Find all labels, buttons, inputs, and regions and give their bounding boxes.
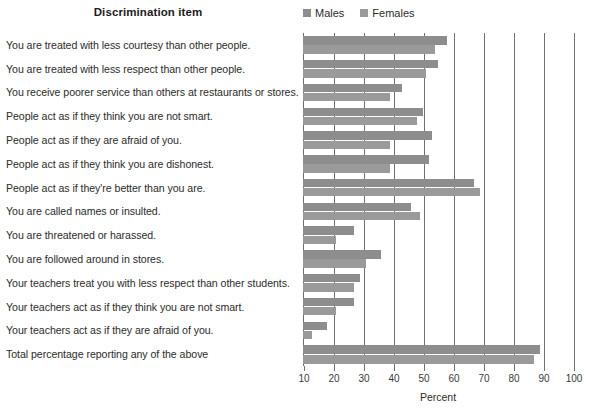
row-bars bbox=[303, 273, 583, 293]
chart-row: People act as if they are afraid of you. bbox=[0, 128, 589, 152]
x-tick-label: 80 bbox=[508, 373, 519, 384]
legend-label: Males bbox=[315, 7, 344, 19]
square-swatch-icon bbox=[303, 9, 311, 17]
chart-legend: MalesFemales bbox=[303, 7, 415, 19]
row-bars bbox=[303, 320, 583, 340]
x-tick-label: 70 bbox=[478, 373, 489, 384]
chart-row: You are threatened or harassed. bbox=[0, 223, 589, 247]
x-tick-label: 20 bbox=[328, 373, 339, 384]
row-label: Your teachers act as if they are afraid … bbox=[6, 324, 214, 336]
bar-females bbox=[303, 93, 390, 101]
chart-row: Total percentage reporting any of the ab… bbox=[0, 342, 589, 366]
row-bars bbox=[303, 344, 583, 364]
row-label: You are followed around in stores. bbox=[6, 253, 164, 265]
tick-mark-50 bbox=[424, 366, 425, 371]
bar-males bbox=[303, 203, 411, 211]
tick-mark-90 bbox=[544, 366, 545, 371]
row-bars bbox=[303, 130, 583, 150]
x-tick-label: 100 bbox=[566, 373, 583, 384]
row-bars bbox=[303, 59, 583, 79]
tick-mark-20 bbox=[334, 366, 335, 371]
tick-mark-100 bbox=[574, 366, 575, 371]
bar-females bbox=[303, 307, 336, 315]
tick-mark-80 bbox=[514, 366, 515, 371]
bar-females bbox=[303, 259, 366, 267]
legend-label: Females bbox=[372, 7, 414, 19]
bar-females bbox=[303, 45, 435, 53]
bar-males bbox=[303, 250, 381, 258]
row-bars bbox=[303, 106, 583, 126]
row-label: People act as if they're better than you… bbox=[6, 182, 205, 194]
row-label: People act as if they are afraid of you. bbox=[6, 134, 182, 146]
chart-row: People act as if they think you are not … bbox=[0, 104, 589, 128]
bar-males bbox=[303, 84, 402, 92]
bar-females bbox=[303, 164, 390, 172]
x-tick-label: 50 bbox=[418, 373, 429, 384]
legend-entry-females: Females bbox=[360, 7, 414, 19]
row-bars bbox=[303, 154, 583, 174]
bar-males bbox=[303, 131, 432, 139]
row-bars bbox=[303, 249, 583, 269]
bar-females bbox=[303, 69, 426, 77]
row-label: Total percentage reporting any of the ab… bbox=[6, 348, 208, 360]
chart-row: You are treated with less respect than o… bbox=[0, 57, 589, 81]
bar-males bbox=[303, 226, 354, 234]
bar-females bbox=[303, 141, 390, 149]
bar-males bbox=[303, 322, 327, 330]
row-label: You are treated with less courtesy than … bbox=[6, 39, 250, 51]
bar-males bbox=[303, 60, 438, 68]
bar-females bbox=[303, 188, 480, 196]
row-bars bbox=[303, 35, 583, 55]
bar-males bbox=[303, 345, 540, 355]
row-label: You are called names or insulted. bbox=[6, 205, 161, 217]
row-bars bbox=[303, 202, 583, 222]
bar-females bbox=[303, 355, 534, 365]
row-label: Your teachers act as if they think you a… bbox=[6, 301, 244, 313]
discrimination-bar-chart: Discrimination item MalesFemales 1020304… bbox=[0, 0, 589, 413]
row-label: Your teachers treat you with less respec… bbox=[6, 277, 290, 289]
x-axis-title: Percent bbox=[303, 391, 573, 403]
bar-females bbox=[303, 212, 420, 220]
bar-males bbox=[303, 274, 360, 282]
bar-females bbox=[303, 117, 417, 125]
legend-entry-males: Males bbox=[303, 7, 344, 19]
chart-row: You are followed around in stores. bbox=[0, 247, 589, 271]
chart-row: You are treated with less courtesy than … bbox=[0, 33, 589, 57]
bar-males bbox=[303, 155, 429, 163]
row-label: You are treated with less respect than o… bbox=[6, 63, 245, 75]
square-swatch-icon bbox=[360, 9, 368, 17]
chart-row: People act as if they think you are dish… bbox=[0, 152, 589, 176]
chart-header: Discrimination item MalesFemales bbox=[0, 6, 589, 28]
bar-males bbox=[303, 298, 354, 306]
row-label: You are threatened or harassed. bbox=[6, 229, 156, 241]
row-label: You receive poorer service than others a… bbox=[6, 86, 299, 98]
x-tick-label: 10 bbox=[298, 373, 309, 384]
bar-males bbox=[303, 179, 474, 187]
x-tick-label: 90 bbox=[538, 373, 549, 384]
tick-mark-40 bbox=[394, 366, 395, 371]
chart-row: You receive poorer service than others a… bbox=[0, 81, 589, 105]
row-bars bbox=[303, 297, 583, 317]
tick-mark-10 bbox=[304, 366, 305, 371]
chart-row: Your teachers act as if they are afraid … bbox=[0, 318, 589, 342]
page-title: Discrimination item bbox=[0, 6, 296, 18]
chart-row: Your teachers treat you with less respec… bbox=[0, 271, 589, 295]
chart-row: People act as if they're better than you… bbox=[0, 176, 589, 200]
row-bars bbox=[303, 178, 583, 198]
row-bars bbox=[303, 225, 583, 245]
bar-females bbox=[303, 236, 336, 244]
bar-females bbox=[303, 283, 354, 291]
tick-mark-30 bbox=[364, 366, 365, 371]
bar-males bbox=[303, 108, 423, 116]
chart-row: You are called names or insulted. bbox=[0, 200, 589, 224]
tick-mark-60 bbox=[454, 366, 455, 371]
row-label: People act as if they think you are dish… bbox=[6, 158, 214, 170]
x-tick-label: 30 bbox=[358, 373, 369, 384]
row-label: People act as if they think you are not … bbox=[6, 110, 213, 122]
bar-males bbox=[303, 36, 447, 44]
x-tick-label: 40 bbox=[388, 373, 399, 384]
chart-row: Your teachers act as if they think you a… bbox=[0, 295, 589, 319]
x-tick-label: 60 bbox=[448, 373, 459, 384]
chart-rows: You are treated with less courtesy than … bbox=[0, 33, 589, 366]
tick-mark-70 bbox=[484, 366, 485, 371]
